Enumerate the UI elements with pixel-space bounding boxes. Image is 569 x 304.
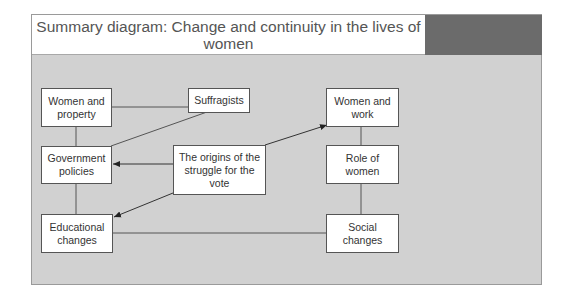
arrow-origins-educational <box>114 193 173 217</box>
node-women-and-work: Women and work <box>326 88 399 127</box>
node-suffragists: Suffragists <box>188 88 250 113</box>
node-social-changes: Social changes <box>326 214 399 253</box>
node-women-and-property: Women and property <box>41 88 112 127</box>
edge-suffragists-government <box>111 112 207 146</box>
node-government-policies: Government policies <box>41 146 112 184</box>
node-educational-changes: Educational changes <box>41 214 113 253</box>
arrow-origins-work <box>265 125 327 145</box>
summary-diagram-panel: Summary diagram: Change and continuity i… <box>31 14 542 285</box>
node-origins-of-struggle: The origins of the struggle for the vote <box>173 145 266 195</box>
node-role-of-women: Role of women <box>326 145 399 184</box>
